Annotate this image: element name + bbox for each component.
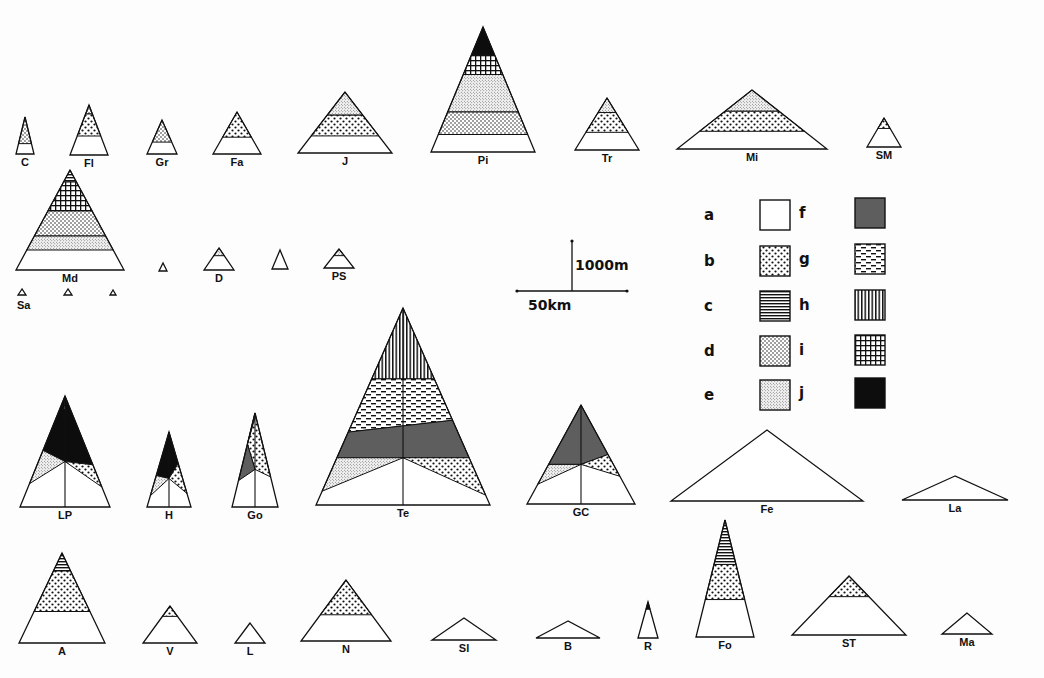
legend-swatch-vertical-lines [855,290,885,320]
volcano-label: Fo [718,639,732,651]
volcano-pi: Pi [431,27,535,166]
volcano-md: Md [16,170,124,284]
band-horizontal-lines [714,520,736,564]
band-fine-stipple [598,98,616,113]
volcano-label: Sl [459,642,469,654]
band-medium-dots [152,120,172,142]
vertical-scale-label: 1000m [575,257,629,273]
triangle-base-fill [902,476,1008,500]
triangle-base-fill [272,250,288,269]
band-medium-dots [34,211,105,236]
legend-label: c [704,297,713,315]
band-coarse-dots [829,576,869,597]
volcano-ps: PS [324,249,354,282]
volcano-h: H [147,432,191,521]
band-fine-stipple [725,90,779,111]
volcano-label: L [247,645,254,657]
scale-endpoint [515,289,518,292]
legend-swatch-dark-grey [855,198,885,228]
band-coarse-dots [311,115,379,136]
volcano-label: V [166,645,174,657]
volcano-r: R [638,602,658,652]
legend-swatch-fine-stipple [760,380,790,410]
band-coarse-dots [878,118,890,128]
volcano-st: ST [792,576,906,649]
diagram-canvas: abcdefghij 1000m50km CFlGrFaJPiTrMiSMMdD… [0,0,1044,678]
volcano-label: ST [842,637,856,649]
volcano-fl: Fl [70,105,108,169]
volcano-label: R [644,640,652,652]
legend-item-c: c [704,291,790,321]
legend: abcdefghij [704,198,885,410]
legend-item-i: i [799,335,885,365]
band-coarse-dots [162,606,177,616]
legend-swatch-solid-black [855,378,885,408]
volcano-unlabeled [272,250,288,269]
volcano-label: Gr [156,156,170,168]
volcano-unlabeled [159,263,167,271]
band-fine-stipple [327,92,363,115]
volcano-label: Go [247,509,263,521]
volcano-l: L [235,623,265,657]
legend-label: f [799,204,806,222]
volcano-fa: Fa [213,112,261,168]
band-grid [48,182,92,211]
legend-label: h [799,296,810,314]
legend-item-j: j [798,378,885,408]
band-coarse-dots [223,112,252,137]
band-horizontal-lines [53,553,70,571]
volcano-label: N [342,643,350,655]
scale-bar: 1000m50km [515,239,628,313]
triangle-base-fill [235,623,265,643]
volcano-d: D [204,248,234,284]
legend-swatch-grid [855,335,885,365]
horizontal-scale-label: 50km [528,297,571,313]
volcano-c: C [16,117,34,168]
volcano-label: Sa [17,299,31,311]
volcano-label: D [215,272,223,284]
triangle-base-fill [671,430,863,501]
volcano-label: GC [573,506,590,518]
legend-swatch-blank [760,200,790,230]
volcano-label: J [342,155,348,167]
volcano-label: H [165,509,173,521]
volcano-label: PS [332,270,347,282]
legend-item-b: b [704,246,790,276]
triangle-base-fill [536,621,600,638]
legend-swatch-horizontal-lines [760,291,790,321]
volcano-unlabeled [64,289,72,295]
band-coarse-dots [320,580,371,615]
volcano-label: Fa [231,156,245,168]
legend-label: d [704,342,715,360]
legend-label: a [704,206,714,224]
band-coarse-dots [34,571,90,612]
volcano-label: La [949,502,963,514]
legend-item-h: h [799,290,885,320]
volcano-sm: SM [867,118,901,161]
volcano-v: V [143,606,197,657]
volcano-label: LP [58,509,72,521]
volcano-b: B [536,621,600,652]
volcano-label: Fl [84,157,94,169]
volcano-label: Mi [746,151,758,163]
band-coarse-dots [700,111,805,131]
scale-endpoint [625,289,628,292]
band-grid [463,55,503,75]
legend-item-e: e [704,380,790,410]
band-medium-dots [438,112,527,135]
volcano-gc: GC [527,405,635,518]
volcano-lp: LP [20,396,110,521]
volcano-te: Te [316,308,490,519]
legend-swatch-coarse-dots [760,246,790,276]
volcano-label: Te [397,507,409,519]
triangle-base-fill [432,618,496,640]
legend-label: b [704,252,715,270]
band-coarse-dots [705,564,744,599]
legend-swatch-dashes [855,244,885,274]
volcano-label: Md [62,272,78,284]
band-fine-stipple [214,248,225,256]
legend-label: e [704,386,714,404]
volcano-sl: Sl [432,618,496,654]
legend-label: i [799,341,804,359]
volcano-n: N [301,580,391,655]
